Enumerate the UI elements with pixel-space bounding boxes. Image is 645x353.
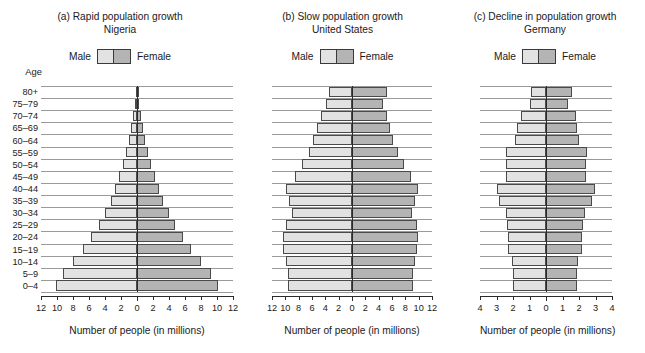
- x-tick: [596, 296, 597, 300]
- bar-female: [546, 184, 595, 194]
- legend-male-label: Male: [69, 51, 91, 62]
- center-axis-line: [546, 86, 547, 292]
- center-axis-line: [137, 86, 138, 292]
- x-tick: [392, 296, 393, 300]
- bar-female: [352, 111, 387, 121]
- bar-male: [111, 196, 137, 206]
- bar-male: [317, 123, 352, 133]
- x-tick: [497, 296, 498, 300]
- plot-area-united-states: [272, 86, 432, 292]
- bar-female: [352, 280, 413, 290]
- bar-male: [513, 268, 546, 278]
- bar-female: [137, 135, 145, 145]
- bar-male: [507, 220, 546, 230]
- bar-female: [137, 220, 175, 230]
- legend-nigeria: Male Female: [0, 49, 240, 64]
- bar-male: [497, 184, 547, 194]
- panel-united-states-subtitle: United States: [240, 24, 445, 36]
- bar-male: [531, 87, 546, 97]
- panel-nigeria-title: (a) Rapid population growth: [0, 11, 240, 23]
- bar-female: [546, 99, 568, 109]
- legend-female-swatch: [539, 50, 555, 63]
- bar-male: [517, 123, 546, 133]
- x-tick: [339, 296, 340, 300]
- bar-female: [137, 256, 201, 266]
- x-tick: [405, 296, 406, 300]
- bar-female: [546, 196, 592, 206]
- panel-germany-title: (c) Decline in population growth: [445, 11, 645, 23]
- bar-male: [286, 184, 352, 194]
- x-tick: [41, 296, 42, 300]
- x-tick: [352, 296, 353, 301]
- legend-female-label: Female: [562, 51, 596, 62]
- x-tick: [612, 296, 613, 300]
- bar-male: [91, 232, 137, 242]
- x-tick: [312, 296, 313, 300]
- x-axis-nigeria: [41, 296, 233, 297]
- bar-female: [546, 280, 577, 290]
- bar-female: [352, 147, 398, 157]
- bar-female: [546, 171, 586, 181]
- x-tick: [121, 296, 122, 300]
- x-tick: [201, 296, 202, 300]
- bar-female: [546, 268, 577, 278]
- bar-female: [137, 171, 155, 181]
- bar-female: [352, 256, 415, 266]
- bar-female: [352, 268, 413, 278]
- bar-male: [286, 256, 352, 266]
- bar-male: [506, 147, 546, 157]
- bar-male: [515, 135, 546, 145]
- bar-female: [546, 111, 576, 121]
- bar-male: [309, 147, 352, 157]
- x-tick: [169, 296, 170, 300]
- x-tick: [153, 296, 154, 300]
- bar-male: [83, 244, 137, 254]
- x-tick-label: 12: [422, 303, 442, 313]
- bar-female: [352, 232, 418, 242]
- bar-female: [352, 208, 412, 218]
- plot-area-nigeria: [41, 86, 233, 292]
- x-tick: [272, 296, 273, 300]
- legend-germany: Male Female: [445, 49, 645, 64]
- x-axis-caption-germany: Number of people (in millions): [480, 325, 612, 336]
- bar-male: [506, 171, 546, 181]
- bar-male: [508, 244, 546, 254]
- x-tick: [513, 296, 514, 300]
- bar-male: [283, 232, 352, 242]
- x-tick: [137, 296, 138, 301]
- bar-male: [512, 256, 546, 266]
- bar-male: [506, 159, 546, 169]
- bar-male: [508, 232, 546, 242]
- x-tick: [325, 296, 326, 300]
- bar-male: [292, 208, 352, 218]
- bar-female: [137, 268, 211, 278]
- bar-male: [129, 135, 137, 145]
- legend-male-label: Male: [494, 51, 516, 62]
- x-axis-caption-nigeria: Number of people (in millions): [41, 325, 233, 336]
- x-tick: [299, 296, 300, 300]
- bar-male: [521, 111, 546, 121]
- bar-female: [546, 232, 582, 242]
- bar-female: [352, 135, 393, 145]
- panel-germany: (c) Decline in population growth Germany…: [445, 0, 645, 353]
- bar-female: [352, 99, 383, 109]
- x-tick: [530, 296, 531, 300]
- legend-female-swatch: [114, 50, 130, 63]
- legend-female-swatch: [337, 50, 353, 63]
- legend-female-label: Female: [360, 51, 394, 62]
- bar-female: [546, 87, 572, 97]
- bar-male: [313, 135, 352, 145]
- gridline: [272, 292, 432, 293]
- bar-male: [99, 220, 137, 230]
- bar-female: [546, 159, 586, 169]
- center-axis-line: [352, 86, 353, 292]
- legend-swatch: [320, 49, 354, 64]
- legend-male-swatch: [523, 50, 539, 63]
- plot-area-germany: [480, 86, 612, 292]
- bar-male: [63, 268, 137, 278]
- panel-united-states-title: (b) Slow population growth: [240, 11, 445, 23]
- bar-female: [352, 220, 417, 230]
- legend-female-label: Female: [137, 51, 171, 62]
- bar-female: [352, 196, 415, 206]
- bar-female: [352, 87, 387, 97]
